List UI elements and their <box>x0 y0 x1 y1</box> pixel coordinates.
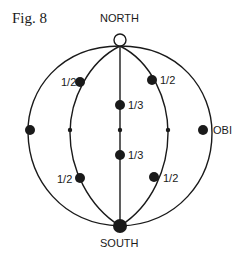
globe-diagram: NORTH SOUTH 1/2 1/2 1/3 1/3 1/2 1/2 OBI <box>0 0 244 258</box>
inner-left-equator-dot <box>68 128 72 132</box>
upper-right-half-dot <box>147 75 157 85</box>
left-equator-dot <box>25 125 35 135</box>
lower-left-half-label: 1/2 <box>57 173 72 185</box>
central-lower-third-dot <box>115 150 125 160</box>
outer-left-meridian <box>28 46 120 226</box>
south-label: SOUTH <box>100 237 139 249</box>
upper-left-half-dot <box>75 77 85 87</box>
central-upper-third-dot <box>115 100 125 110</box>
north-pole-marker <box>114 34 126 46</box>
lower-right-half-label: 1/2 <box>163 172 178 184</box>
upper-left-half-label: 1/2 <box>61 76 76 88</box>
obi-label: OBI <box>213 124 232 136</box>
upper-right-half-label: 1/2 <box>160 74 175 86</box>
inner-left-meridian <box>70 46 120 226</box>
lower-right-half-dot <box>149 172 159 182</box>
north-label: NORTH <box>100 12 139 24</box>
central-lower-third-label: 1/3 <box>128 149 143 161</box>
outer-right-meridian <box>120 46 212 226</box>
lower-left-half-dot <box>75 173 85 183</box>
central-upper-third-label: 1/3 <box>128 99 143 111</box>
inner-right-meridian <box>120 46 168 226</box>
center-equator-dot <box>118 128 122 132</box>
obi-dot <box>198 125 208 135</box>
inner-right-equator-dot <box>166 128 170 132</box>
south-pole-marker <box>113 219 127 233</box>
